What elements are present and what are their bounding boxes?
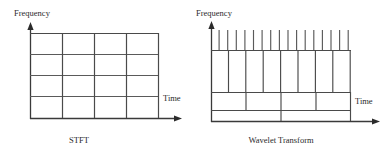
panel-wavelet: Frequency Time xyxy=(196,8,380,145)
figure-canvas: Frequency Time xyxy=(0,0,392,155)
panel-stft: Frequency Time xyxy=(14,8,182,145)
wavelet-band-level-2-dividers xyxy=(246,92,351,110)
wavelet-band-level-1-dividers xyxy=(229,50,351,92)
wavelet-caption: Wavelet Transform xyxy=(248,135,314,145)
stft-x-axis-arrowhead xyxy=(174,115,182,121)
wavelet-band-level-3-dividers xyxy=(281,110,351,121)
wavelet-x-axis-label: Time xyxy=(355,96,373,106)
stft-y-axis-arrowhead xyxy=(27,22,33,30)
stft-caption: STFT xyxy=(69,135,90,145)
stft-y-axis-label: Frequency xyxy=(14,8,51,18)
two-panel-tiling-diagram: Frequency Time xyxy=(0,0,392,155)
wavelet-x-axis-arrowhead xyxy=(372,118,380,124)
wavelet-band-level-0-ticks xyxy=(219,30,348,50)
stft-x-axis-label: Time xyxy=(163,93,181,103)
wavelet-y-axis-arrowhead xyxy=(208,21,214,29)
wavelet-y-axis-label: Frequency xyxy=(196,8,233,18)
